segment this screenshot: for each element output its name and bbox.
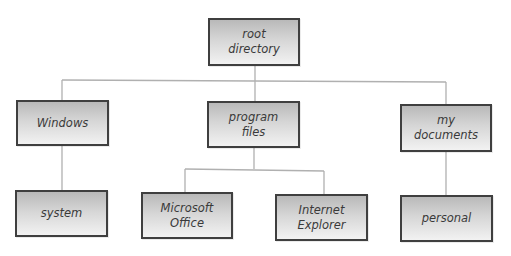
node-label: system (41, 206, 83, 221)
node-label: root directory (228, 27, 280, 57)
node-label: program files (229, 110, 278, 140)
node-microsoft-office: Microsoft Office (141, 192, 233, 239)
directory-tree-diagram: root directory Windows program files my … (0, 0, 511, 256)
node-label: Microsoft Office (161, 201, 214, 231)
node-system: system (15, 190, 108, 237)
node-label: Windows (37, 116, 89, 131)
node-program-files: program files (207, 101, 300, 148)
node-my-documents: my documents (400, 104, 492, 152)
node-label: Internet Explorer (297, 203, 345, 233)
node-root-directory: root directory (208, 18, 300, 66)
node-personal: personal (400, 195, 493, 242)
node-windows: Windows (16, 100, 109, 146)
node-label: my documents (414, 113, 478, 143)
connector-level1-bus (62, 80, 446, 82)
node-label: personal (422, 211, 472, 226)
connector-level2-bus (185, 169, 324, 171)
node-internet-explorer: Internet Explorer (275, 194, 368, 241)
